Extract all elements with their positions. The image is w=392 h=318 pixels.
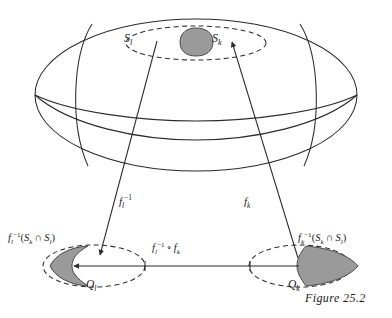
figure-container: Sl Sk fl−1 fk fl−1(Sk ∩ Sl) fk−1(Sk ∩ Sl…: [0, 0, 392, 318]
patch-label-sk: Sk: [212, 32, 222, 44]
map-label-fl-inverse: fl−1: [119, 196, 132, 207]
meridian-left-arc: [76, 24, 92, 166]
chart-right-shaded-preimage: [297, 246, 358, 286]
map-label-fk: fk: [244, 196, 250, 207]
figure-caption: Figure 25.2: [305, 291, 366, 306]
equator-front-arc: [35, 95, 357, 140]
meridian-right-arc: [300, 24, 316, 166]
patch-region-group: [126, 26, 266, 60]
chart-left-preimage-label: fl−1(Sk ∩ Sl): [8, 233, 55, 244]
right-map-arrow: [232, 42, 298, 258]
chart-right-domain-label: Qk: [288, 279, 300, 291]
patch-label-sl: Sl: [124, 32, 132, 44]
transition-map-label: fl−1 ∘ fk: [152, 243, 180, 254]
equator-back-arc: [35, 95, 357, 121]
chart-left-domain-label: Ql: [86, 279, 96, 291]
projection-arrow-group: [100, 41, 298, 258]
chart-right-preimage-label: fk−1(Sk ∩ Sl): [298, 233, 346, 244]
figure-diagram: [0, 0, 392, 318]
transition-map-arrow-group: [74, 261, 299, 271]
left-inverse-map-arrow: [100, 41, 157, 255]
intersection-blob: [180, 28, 213, 56]
